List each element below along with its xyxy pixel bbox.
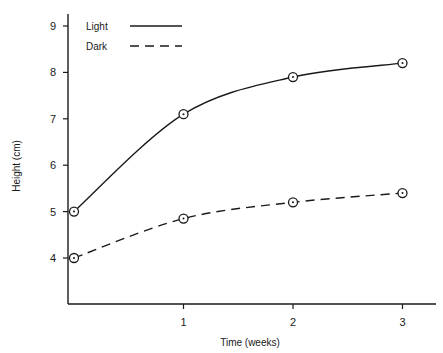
series-dark bbox=[70, 189, 408, 263]
data-point-dot bbox=[73, 211, 75, 213]
data-point-dot bbox=[292, 201, 294, 203]
data-point-dot bbox=[402, 62, 404, 64]
legend-label-dark: Dark bbox=[86, 41, 108, 52]
x-tick-label: 3 bbox=[399, 316, 405, 328]
series-light bbox=[70, 59, 408, 216]
data-point-dot bbox=[183, 113, 185, 115]
y-tick-label: 4 bbox=[50, 252, 56, 264]
data-point-dot bbox=[292, 76, 294, 78]
data-point-dot bbox=[73, 257, 75, 259]
y-tick-label: 8 bbox=[50, 66, 56, 78]
y-axis-title: Height (cm) bbox=[11, 140, 22, 192]
line-chart: 456789123 LightDark Time (weeks) Height … bbox=[0, 0, 443, 353]
light-line bbox=[74, 63, 403, 211]
data-point-dot bbox=[402, 192, 404, 194]
x-axis-title: Time (weeks) bbox=[220, 337, 280, 348]
x-tick-label: 1 bbox=[180, 316, 186, 328]
x-tick-label: 2 bbox=[290, 316, 296, 328]
y-tick-label: 9 bbox=[50, 20, 56, 32]
y-tick-label: 6 bbox=[50, 159, 56, 171]
legend-label-light: Light bbox=[86, 21, 108, 32]
axes: 456789123 bbox=[50, 14, 436, 328]
y-tick-label: 7 bbox=[50, 113, 56, 125]
dark-line bbox=[74, 193, 403, 258]
y-tick-label: 5 bbox=[50, 206, 56, 218]
series-group bbox=[70, 59, 408, 263]
data-point-dot bbox=[183, 218, 185, 220]
legend: LightDark bbox=[86, 21, 182, 52]
